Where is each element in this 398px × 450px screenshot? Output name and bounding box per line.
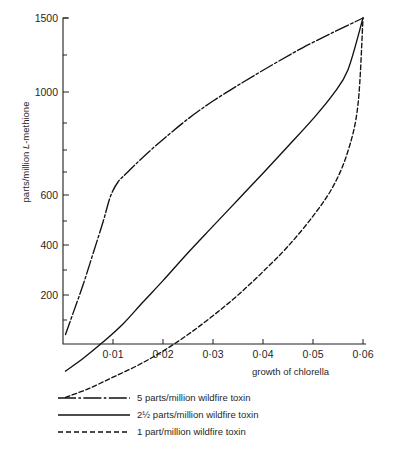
axis-lines: [63, 18, 366, 344]
x-axis-title: growth of chlorella: [252, 366, 330, 377]
y-axis-tick-labels: 1500 1000 600 400 200: [35, 12, 59, 301]
y-tick-label-400: 400: [40, 239, 58, 251]
chart-figure: parts/million L-methione 1500 1000: [0, 0, 398, 450]
legend: 5 parts/million wildfire toxin 2½ parts/…: [58, 392, 258, 437]
x-axis-ticks: [113, 339, 363, 344]
y-tick-label-600: 600: [40, 189, 58, 201]
data-curves: [66, 18, 364, 397]
x-axis-tick-labels: 0·01 0·02 0·03 0·04 0·05 0·06: [102, 348, 373, 360]
x-tick-label-001: 0·01: [102, 348, 123, 360]
x-tick-label-003: 0·03: [202, 348, 223, 360]
legend-label-2-and-half-parts: 2½ parts/million wildfire toxin: [137, 409, 258, 420]
y-axis-title-prefix: parts/million: [20, 149, 31, 202]
y-axis-title: parts/million L-methione: [20, 102, 31, 203]
y-axis-ticks: [63, 18, 69, 295]
curve-2-and-half-parts-per-million: [66, 18, 364, 371]
x-tick-label-005: 0·05: [302, 348, 323, 360]
x-tick-label-002: 0·02: [152, 348, 173, 360]
y-axis-minor-ticks: [63, 55, 67, 320]
chart-canvas: parts/million L-methione 1500 1000: [0, 0, 398, 450]
x-tick-label-004: 0·04: [252, 348, 273, 360]
legend-label-1-part: 1 part/million wildfire toxin: [137, 426, 246, 437]
y-axis-title-suffix: -methione: [20, 102, 31, 144]
svg-text:parts/million L-methione: parts/million L-methione: [20, 102, 31, 203]
curve-5-parts-per-million: [66, 18, 364, 335]
y-tick-label-1500: 1500: [35, 12, 59, 24]
y-tick-label-200: 200: [40, 289, 58, 301]
curve-1-part-per-million: [66, 18, 364, 397]
x-tick-label-006: 0·06: [352, 348, 373, 360]
y-tick-label-1000: 1000: [35, 86, 59, 98]
legend-label-5-parts: 5 parts/million wildfire toxin: [137, 392, 251, 403]
